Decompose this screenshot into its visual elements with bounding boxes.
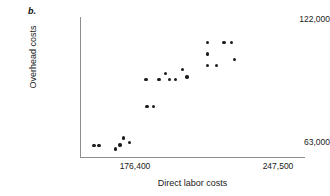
- x-axis-tick-label-left: 176,400: [105, 161, 165, 171]
- data-point: [215, 64, 218, 67]
- data-point: [128, 141, 131, 144]
- data-point: [222, 41, 225, 44]
- data-point: [114, 147, 117, 150]
- data-point: [157, 78, 160, 81]
- data-point: [185, 75, 188, 78]
- data-point: [122, 136, 125, 139]
- data-point: [181, 68, 184, 71]
- y-axis-title: Overhead costs: [28, 2, 38, 112]
- data-point: [152, 105, 155, 108]
- data-point: [230, 41, 233, 44]
- data-point: [164, 72, 167, 75]
- data-point: [206, 52, 209, 55]
- scatter-plot-figure: b. 122,000 63,000 176,400 247,500 Overhe…: [0, 0, 330, 196]
- data-point: [233, 58, 236, 61]
- x-axis-tick-label-right: 247,500: [248, 161, 308, 171]
- data-point: [206, 64, 209, 67]
- x-axis-title: Direct labor costs: [80, 178, 305, 188]
- data-point: [118, 143, 121, 146]
- data-point: [168, 78, 171, 81]
- x-axis-line: [80, 157, 305, 158]
- data-point: [97, 144, 100, 147]
- data-point: [174, 78, 177, 81]
- data-point: [144, 78, 147, 81]
- data-point: [206, 41, 209, 44]
- plot-area: [80, 17, 305, 157]
- data-point: [145, 105, 148, 108]
- data-point: [92, 144, 95, 147]
